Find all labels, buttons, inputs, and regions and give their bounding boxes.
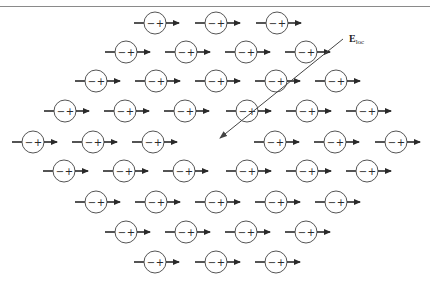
dipole: −+ bbox=[315, 70, 360, 92]
minus-charge: − bbox=[177, 106, 185, 117]
minus-charge: − bbox=[176, 166, 184, 177]
minus-charge: − bbox=[268, 197, 276, 208]
plus-charge: + bbox=[187, 47, 195, 58]
dipole: −+ bbox=[164, 100, 209, 122]
plus-charge: + bbox=[217, 76, 225, 87]
minus-charge: − bbox=[147, 18, 155, 29]
dipole: −+ bbox=[226, 100, 271, 122]
dipole: −+ bbox=[195, 70, 240, 92]
plus-charge: + bbox=[307, 227, 315, 238]
plus-charge: + bbox=[156, 257, 164, 268]
dipole: −+ bbox=[72, 131, 117, 153]
minus-charge: − bbox=[25, 137, 33, 148]
plus-charge: + bbox=[97, 197, 105, 208]
dipole: −+ bbox=[195, 251, 240, 273]
minus-charge: − bbox=[239, 106, 247, 117]
plus-charge: + bbox=[185, 166, 193, 177]
dipole: −+ bbox=[195, 191, 240, 213]
minus-charge: − bbox=[268, 257, 276, 268]
dipole: −+ bbox=[346, 160, 391, 182]
dipole-group: −+−+−+−+−+−+−+−+−+−+−+−+−+−+−+−+−+−+−+−+… bbox=[12, 12, 420, 273]
dipole: −+ bbox=[195, 12, 240, 34]
dipole: −+ bbox=[134, 251, 179, 273]
field-label-main: E bbox=[349, 33, 356, 44]
dipole: −+ bbox=[105, 221, 150, 243]
minus-charge: − bbox=[118, 47, 126, 58]
plus-charge: + bbox=[187, 227, 195, 238]
minus-charge: − bbox=[178, 227, 186, 238]
field-label-e-loc: Eloc bbox=[349, 33, 364, 46]
dipole: −+ bbox=[165, 221, 210, 243]
plus-charge: + bbox=[277, 257, 285, 268]
dipole: −+ bbox=[285, 221, 330, 243]
dipole: −+ bbox=[44, 100, 89, 122]
minus-charge: − bbox=[116, 166, 124, 177]
minus-charge: − bbox=[148, 197, 156, 208]
dipole: −+ bbox=[104, 100, 149, 122]
dipole: −+ bbox=[226, 160, 271, 182]
dipole: −+ bbox=[103, 160, 148, 182]
minus-charge: − bbox=[208, 257, 216, 268]
dipole: −+ bbox=[255, 251, 300, 273]
minus-charge: − bbox=[359, 106, 367, 117]
minus-charge: − bbox=[298, 47, 306, 58]
dipole: −+ bbox=[105, 41, 150, 63]
dipole: −+ bbox=[135, 70, 180, 92]
minus-charge: − bbox=[147, 257, 155, 268]
plus-charge: + bbox=[277, 197, 285, 208]
dipole: −+ bbox=[315, 191, 360, 213]
minus-charge: − bbox=[208, 18, 216, 29]
plus-charge: + bbox=[247, 47, 255, 58]
minus-charge: − bbox=[178, 47, 186, 58]
dipole: −+ bbox=[285, 41, 330, 63]
dipole: −+ bbox=[286, 100, 331, 122]
plus-charge: + bbox=[397, 137, 405, 148]
plus-charge: + bbox=[307, 47, 315, 58]
minus-charge: − bbox=[118, 227, 126, 238]
plus-charge: + bbox=[157, 197, 165, 208]
plus-charge: + bbox=[337, 76, 345, 87]
dipole: −+ bbox=[165, 41, 210, 63]
minus-charge: − bbox=[145, 137, 153, 148]
minus-charge: − bbox=[299, 106, 307, 117]
dipole: −+ bbox=[255, 70, 300, 92]
plus-charge: + bbox=[94, 137, 102, 148]
dipole-lattice-figure: −+−+−+−+−+−+−+−+−+−+−+−+−+−+−+−+−+−+−+−+… bbox=[0, 0, 430, 281]
minus-charge: − bbox=[267, 137, 275, 148]
minus-charge: − bbox=[359, 166, 367, 177]
plus-charge: + bbox=[278, 18, 286, 29]
plus-charge: + bbox=[65, 166, 73, 177]
plus-charge: + bbox=[217, 257, 225, 268]
plus-charge: + bbox=[34, 137, 42, 148]
plus-charge: + bbox=[368, 166, 376, 177]
dipole: −+ bbox=[43, 160, 88, 182]
dipole-lattice-svg: −+−+−+−+−+−+−+−+−+−+−+−+−+−+−+−+−+−+−+−+… bbox=[0, 0, 430, 281]
minus-charge: − bbox=[269, 18, 277, 29]
dipole: −+ bbox=[225, 221, 270, 243]
plus-charge: + bbox=[248, 166, 256, 177]
minus-charge: − bbox=[56, 166, 64, 177]
dipole: −+ bbox=[375, 131, 420, 153]
plus-charge: + bbox=[66, 106, 74, 117]
field-label-subscript: loc bbox=[356, 38, 365, 46]
dipole: −+ bbox=[134, 12, 179, 34]
minus-charge: − bbox=[88, 197, 96, 208]
plus-charge: + bbox=[337, 197, 345, 208]
minus-charge: − bbox=[117, 106, 125, 117]
minus-charge: − bbox=[299, 166, 307, 177]
dipole: −+ bbox=[135, 191, 180, 213]
minus-charge: − bbox=[327, 137, 335, 148]
dipole: −+ bbox=[225, 41, 270, 63]
plus-charge: + bbox=[276, 137, 284, 148]
plus-charge: + bbox=[277, 76, 285, 87]
plus-charge: + bbox=[247, 227, 255, 238]
dipole: −+ bbox=[75, 191, 120, 213]
minus-charge: − bbox=[85, 137, 93, 148]
dipole: −+ bbox=[132, 131, 177, 153]
minus-charge: − bbox=[238, 47, 246, 58]
minus-charge: − bbox=[208, 197, 216, 208]
minus-charge: − bbox=[298, 227, 306, 238]
dipole: −+ bbox=[314, 131, 359, 153]
plus-charge: + bbox=[126, 106, 134, 117]
plus-charge: + bbox=[125, 166, 133, 177]
